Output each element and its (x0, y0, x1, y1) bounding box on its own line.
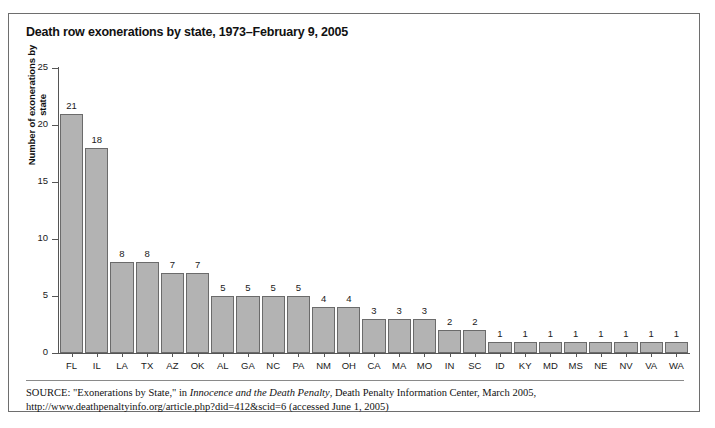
bar-group: 4 (336, 68, 361, 353)
y-axis-title: Number of exonerations by state (26, 35, 48, 175)
bar-value-label: 3 (412, 305, 437, 316)
bar-group: 1 (538, 68, 563, 353)
x-tick-mark (525, 353, 526, 357)
source-label: SOURCE: (26, 387, 70, 398)
bar-va (640, 342, 663, 353)
bar-group: 5 (286, 68, 311, 353)
x-tick-label-ca: CA (361, 360, 386, 371)
bar-value-label: 1 (513, 328, 538, 339)
x-tick-mark (97, 353, 98, 357)
bar-group: 21 (59, 68, 84, 353)
y-tick-5: 5 (52, 296, 58, 297)
bar-group: 4 (311, 68, 336, 353)
x-tick-mark (273, 353, 274, 357)
y-tick-mark (52, 239, 58, 240)
bar-tx (136, 262, 159, 353)
bar-value-label: 4 (311, 293, 336, 304)
bar-value-label: 5 (210, 282, 235, 293)
x-tick-label-pa: PA (286, 360, 311, 371)
y-tick-mark (52, 182, 58, 183)
bar-nm (312, 307, 335, 353)
y-tick-mark (52, 353, 58, 354)
x-tick-mark (550, 353, 551, 357)
bar-group: 1 (487, 68, 512, 353)
x-tick-label-al: AL (210, 360, 235, 371)
bar-group: 1 (513, 68, 538, 353)
bar-nv (614, 342, 637, 353)
bar-ky (514, 342, 537, 353)
y-tick-25: 25 (52, 68, 58, 69)
x-tick-label-az: AZ (160, 360, 185, 371)
x-tick-label-tx: TX (135, 360, 160, 371)
bar-value-label: 5 (286, 282, 311, 293)
y-tick-0: 0 (52, 353, 58, 354)
bar-ok (186, 273, 209, 353)
bar-value-label: 7 (160, 259, 185, 270)
bar-mo (413, 319, 436, 353)
y-tick-15: 15 (52, 182, 58, 183)
source-text-part1: "Exonerations by State," in (70, 387, 189, 398)
x-tick-label-ga: GA (235, 360, 260, 371)
y-tick-mark (52, 68, 58, 69)
bar-value-label: 2 (462, 316, 487, 327)
chart-plot: Number of exonerations by state 05101520… (9, 14, 701, 413)
y-tick-20: 20 (52, 125, 58, 126)
bar-group: 1 (639, 68, 664, 353)
x-tick-mark (374, 353, 375, 357)
y-tick-label: 25 (37, 61, 48, 72)
x-tick-label-id: ID (487, 360, 512, 371)
x-tick-mark (626, 353, 627, 357)
bar-value-label: 1 (538, 328, 563, 339)
x-tick-mark (349, 353, 350, 357)
x-tick-label-oh: OH (336, 360, 361, 371)
x-tick-label-nm: NM (311, 360, 336, 371)
x-tick-label-ky: KY (513, 360, 538, 371)
y-tick-label: 0 (43, 346, 48, 357)
bar-wa (665, 342, 688, 353)
y-tick-mark (52, 125, 58, 126)
bar-group: 5 (235, 68, 260, 353)
x-tick-mark (122, 353, 123, 357)
x-tick-label-in: IN (437, 360, 462, 371)
x-tick-mark (198, 353, 199, 357)
x-tick-label-il: IL (84, 360, 109, 371)
x-tick-mark (651, 353, 652, 357)
bar-group: 3 (387, 68, 412, 353)
source-divider (26, 380, 684, 381)
x-tick-label-wa: WA (664, 360, 689, 371)
bar-group: 8 (135, 68, 160, 353)
bar-il (85, 148, 108, 353)
x-tick-mark (450, 353, 451, 357)
y-tick-mark (52, 296, 58, 297)
bar-pa (287, 296, 310, 353)
bar-value-label: 8 (109, 248, 134, 259)
bar-ca (362, 319, 385, 353)
x-tick-mark (324, 353, 325, 357)
bar-value-label: 1 (664, 328, 689, 339)
bar-value-label: 2 (437, 316, 462, 327)
bar-value-label: 18 (84, 134, 109, 145)
bar-oh (337, 307, 360, 353)
y-tick-label: 5 (43, 289, 48, 300)
bar-group: 7 (160, 68, 185, 353)
y-tick-label: 15 (37, 175, 48, 186)
x-tick-label-sc: SC (462, 360, 487, 371)
bar-ms (564, 342, 587, 353)
bar-value-label: 8 (135, 248, 160, 259)
source-note: SOURCE: "Exonerations by State," in Inno… (26, 386, 686, 414)
x-tick-mark (172, 353, 173, 357)
x-tick-label-nc: NC (261, 360, 286, 371)
bar-value-label: 3 (361, 305, 386, 316)
bar-in (438, 330, 461, 353)
x-tick-mark (147, 353, 148, 357)
x-tick-label-va: VA (639, 360, 664, 371)
figure-frame: Death row exonerations by state, 1973–Fe… (8, 13, 700, 412)
bar-group: 2 (462, 68, 487, 353)
bar-nc (262, 296, 285, 353)
bar-value-label: 1 (613, 328, 638, 339)
bar-md (539, 342, 562, 353)
y-tick-label: 20 (37, 118, 48, 129)
bar-group: 3 (361, 68, 386, 353)
bar-value-label: 1 (639, 328, 664, 339)
bar-group: 7 (185, 68, 210, 353)
